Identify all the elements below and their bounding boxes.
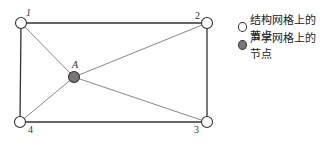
legend: 结构网格上的节点 声学网格上的节点 [238,18,326,54]
interpolation-lines [20,23,207,122]
outer-rectangle [20,23,207,122]
structural-node-3 [202,117,213,128]
structural-node-4 [15,117,26,128]
structural-node-2 [202,18,213,29]
legend-item-acoustic: 声学网格上的节点 [238,36,326,54]
node-label-a: A [72,59,78,70]
acoustic-node-a [69,72,80,83]
node-label-3: 3 [194,124,199,135]
node-label-1: 1 [26,7,31,18]
legend-label-acoustic: 声学网格上的节点 [250,29,326,61]
node-label-4: 4 [28,124,33,135]
structural-node-1 [16,18,27,29]
open-circle-icon [238,22,247,32]
filled-circle-icon [238,40,247,50]
node-label-2: 2 [195,10,200,21]
